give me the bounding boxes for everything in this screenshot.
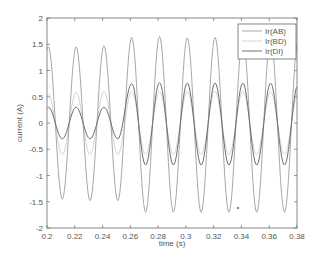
x-tick-label: 0.22 (67, 232, 83, 241)
legend-label-ir-di: Ir(DI) (265, 47, 284, 56)
chart: 21.510.50-0.5-1-1.5-2 0.20.220.240.260.2… (0, 0, 318, 254)
legend-label-ir-bd: Ir(BD) (265, 37, 287, 46)
legend-label-ir-ab: Ir(AB) (265, 27, 286, 36)
y-tick-label: -0.5 (29, 145, 43, 154)
x-tick-label: 0.26 (123, 232, 139, 241)
x-tick-label: 0.34 (234, 232, 250, 241)
y-tick-label: 1 (39, 67, 44, 76)
y-tick-label: 0.5 (32, 93, 44, 102)
legend: Ir(AB) Ir(BD) Ir(DI) (238, 24, 296, 59)
y-axis-label: current (A) (15, 104, 24, 142)
series-line-ir-ab (47, 36, 296, 212)
y-tick-label: -1 (36, 172, 44, 181)
x-tick-label: 0.36 (261, 232, 277, 241)
x-tick-label: 0.32 (206, 232, 222, 241)
y-tick-label: 2 (39, 14, 44, 23)
x-tick-label: 0.38 (289, 232, 305, 241)
x-tick-label: 0.24 (95, 232, 111, 241)
y-tick-label: 1.5 (32, 40, 44, 49)
y-tick-label: -1.5 (29, 198, 43, 207)
x-axis-label: time (s) (159, 239, 186, 248)
y-tick-label: 0 (39, 119, 44, 128)
plot-series (47, 36, 296, 212)
stray-dot (237, 207, 239, 209)
x-tick-label: 0.2 (41, 232, 53, 241)
